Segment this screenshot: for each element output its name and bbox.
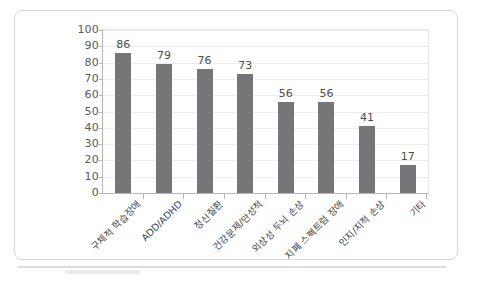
bar-value-label: 76 xyxy=(198,55,212,66)
bar-slot: 56 xyxy=(306,30,347,193)
y-tickmark xyxy=(99,144,103,145)
bar-value-label: 41 xyxy=(360,112,374,123)
bar-slot: 41 xyxy=(347,30,388,193)
x-axis-label: ADD/ADHD xyxy=(140,199,184,243)
y-axis-tick-90: 90 xyxy=(85,40,99,51)
y-tickmark xyxy=(99,112,103,113)
y-tickmark xyxy=(99,128,103,129)
bar-slot: 79 xyxy=(144,30,185,193)
y-axis-tick-labels: 1009080706050403020100 xyxy=(63,29,99,194)
bar-value-label: 17 xyxy=(401,151,415,162)
y-axis-tick-70: 70 xyxy=(85,72,99,83)
bar[interactable] xyxy=(278,102,294,193)
chart-figure: 1009080706050403020100 8679767356564117 … xyxy=(15,11,459,261)
bar-series: 8679767356564117 xyxy=(103,30,428,193)
bar[interactable] xyxy=(318,102,334,193)
bar-value-label: 56 xyxy=(279,88,293,99)
y-tickmark xyxy=(99,30,103,31)
y-tickmark xyxy=(99,160,103,161)
y-tickmark xyxy=(99,63,103,64)
y-tickmark xyxy=(99,177,103,178)
y-tickmark xyxy=(99,79,103,80)
y-axis-tick-40: 40 xyxy=(85,121,99,132)
bar-value-label: 86 xyxy=(116,39,130,50)
bar[interactable] xyxy=(359,126,375,193)
x-axis-label: 정신질환 xyxy=(192,199,224,231)
y-axis-tick-80: 80 xyxy=(85,56,99,67)
bar-value-label: 73 xyxy=(238,60,252,71)
chart-card: 1009080706050403020100 8679767356564117 … xyxy=(14,10,458,260)
bar[interactable] xyxy=(237,74,253,193)
screenshot-root: 1009080706050403020100 8679767356564117 … xyxy=(0,0,480,283)
x-axis-label: 구체적 학습장애 xyxy=(90,199,143,252)
bottom-divider xyxy=(18,266,446,268)
bar-slot: 73 xyxy=(225,30,266,193)
y-tickmark xyxy=(99,46,103,47)
bar-slot: 56 xyxy=(266,30,307,193)
bar[interactable] xyxy=(197,69,213,193)
y-axis-tick-20: 20 xyxy=(85,154,99,165)
y-axis-tick-10: 10 xyxy=(85,170,99,181)
plot-area: 8679767356564117 xyxy=(102,29,429,194)
y-axis-tick-100: 100 xyxy=(77,24,99,35)
bar-slot: 76 xyxy=(184,30,225,193)
y-axis-tick-30: 30 xyxy=(85,138,99,149)
x-axis-category-labels: 구체적 학습장애ADD/ADHD정신질환건강문제/만성적외상성 두뇌 손상지폐 … xyxy=(102,199,429,257)
y-axis-tick-60: 60 xyxy=(85,89,99,100)
bar-value-label: 56 xyxy=(319,88,333,99)
bar[interactable] xyxy=(400,165,416,193)
scrollbar-thumb[interactable] xyxy=(65,270,141,274)
y-axis-tick-0: 0 xyxy=(92,187,99,198)
x-axis-label: 기타 xyxy=(408,199,427,218)
bar-slot: 17 xyxy=(387,30,428,193)
bar-slot: 86 xyxy=(103,30,144,193)
y-tickmark xyxy=(99,95,103,96)
y-axis-tick-50: 50 xyxy=(85,105,99,116)
bar-value-label: 79 xyxy=(157,50,171,61)
bar[interactable] xyxy=(156,64,172,193)
bar[interactable] xyxy=(115,53,131,193)
